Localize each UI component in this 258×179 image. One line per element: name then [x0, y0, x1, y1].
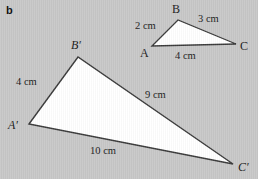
vertex-label-C: C [240, 40, 248, 52]
large-triangle-shape [29, 57, 233, 164]
side-length-label-A-prime-B-prime: 4 cm [16, 77, 37, 88]
vertex-label-A-prime: A′ [8, 119, 18, 131]
side-length-label-C-prime-A-prime: 10 cm [90, 146, 116, 157]
side-length-label-BC: 3 cm [198, 14, 219, 25]
vertex-label-B: B [172, 3, 180, 15]
part-label-b: b [6, 5, 13, 16]
geometry-figure: b A B C 2 cm 3 cm 4 cm A′ B′ C′ 4 cm 9 c… [0, 0, 258, 179]
side-length-label-AB: 2 cm [135, 21, 156, 32]
vertex-label-B-prime: B′ [71, 39, 81, 51]
vertex-label-A: A [140, 47, 149, 59]
vertex-label-C-prime: C′ [238, 161, 249, 173]
figure-canvas [0, 0, 258, 179]
side-length-label-CA: 4 cm [175, 51, 196, 62]
side-length-label-B-prime-C-prime: 9 cm [145, 90, 166, 101]
small-triangle-shape [152, 20, 236, 46]
